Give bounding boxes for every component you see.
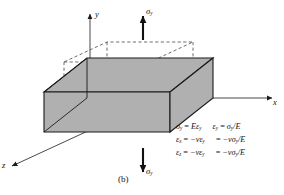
eq2-right-rhs: −νσ [223,135,236,144]
eq3-left-rhs-sub: y [202,151,204,157]
equation-3-right: = −νσy/E [216,146,245,161]
eq2-right-tail: /E [238,135,245,144]
eq2-left-lhs-sub: x [179,138,181,144]
y-axis-label: y [95,9,99,19]
axis-z [12,130,90,166]
eq3-right-operator: = [216,148,221,157]
stress-label-top: σy [146,6,153,16]
stress-label-bottom: σy [146,166,153,176]
eq2-right-operator: = [216,135,221,144]
stress-label-bottom-subscript: y [150,170,152,176]
eq2-left-operator: = [184,135,189,144]
equation-row-1: σy = Eεy εy = σy/E [176,120,284,133]
x-axis-label: x [273,97,277,107]
eq3-left-rhs: −νε [190,148,202,157]
eq1-left-operator: = [184,122,189,131]
eq1-right-lhs-sub: y [216,125,218,131]
eq1-left-rhs-sub: y [199,125,201,131]
stress-label-top-subscript: y [150,10,152,16]
z-axis-line [12,130,90,166]
eq3-left-operator: = [183,148,188,157]
constitutive-equations: σy = Eεy εy = σy/E εx = −νεy = −νσy/E εz… [176,120,284,159]
stress-strain-figure [0,0,284,195]
z-axis-label: z [2,160,5,170]
deformed-block-front-face [44,92,170,132]
figure-caption: (b) [118,174,129,184]
eq3-right-rhs: −νσ [222,148,235,157]
eq2-left-rhs-sub: y [203,138,205,144]
eq3-right-tail: /E [238,148,245,157]
eq3-left-lhs-sub: z [179,151,181,157]
equation-row-3: εz = −νεy = −νσy/E [176,146,284,159]
eq1-right-operator: = [220,122,225,131]
eq2-left-rhs: −νε [190,135,202,144]
equation-row-2: εx = −νεy = −νσy/E [176,133,284,146]
eq1-left-lhs-sub: y [180,125,182,131]
eq1-right-tail: /E [233,122,240,131]
equation-3-left: εz = −νεy [176,146,205,161]
